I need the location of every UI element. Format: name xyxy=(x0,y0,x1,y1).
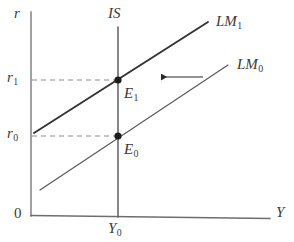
y-axis-label: r xyxy=(14,6,20,21)
e1-point-label: E1 xyxy=(124,86,139,101)
x-axis xyxy=(31,216,270,219)
origin-label: 0 xyxy=(14,206,22,221)
lm0-curve-label: LM0 xyxy=(237,57,263,72)
e0-point-label: E0 xyxy=(124,142,139,157)
lm0-curve-label-subscript: 0 xyxy=(258,63,263,74)
y0-tick-label: Y0 xyxy=(108,221,122,236)
r1-tick-label-subscript: 1 xyxy=(13,76,18,87)
r0-tick-label-text: r xyxy=(7,125,13,141)
r1-tick-label-text: r xyxy=(7,69,13,85)
equilibrium-point-e0 xyxy=(114,132,121,139)
lm1-curve-label-text: LM xyxy=(216,13,237,29)
is-curve-label: IS xyxy=(108,6,121,21)
e1-point-label-text: E xyxy=(124,85,133,101)
lm0-curve xyxy=(40,65,228,190)
e0-point-label-subscript: 0 xyxy=(133,148,138,159)
is-lm-figure: r Y 0 IS LM1 LM0 r1 r0 Y0 E1 E0 xyxy=(0,0,294,242)
lm1-curve-label-subscript: 1 xyxy=(237,20,242,31)
lm1-curve-label: LM1 xyxy=(216,14,242,29)
is-lm-plot-canvas xyxy=(0,0,294,242)
lm0-curve-label-text: LM xyxy=(237,56,258,72)
e1-point-label-subscript: 1 xyxy=(133,92,138,103)
e0-point-label-text: E xyxy=(124,141,133,157)
r0-tick-label: r0 xyxy=(7,126,18,141)
equilibrium-point-e1 xyxy=(114,76,121,83)
x-axis-label: Y xyxy=(276,205,284,220)
r0-tick-label-subscript: 0 xyxy=(13,132,18,143)
r1-tick-label: r1 xyxy=(7,70,18,85)
y0-tick-label-subscript: 0 xyxy=(116,227,121,238)
